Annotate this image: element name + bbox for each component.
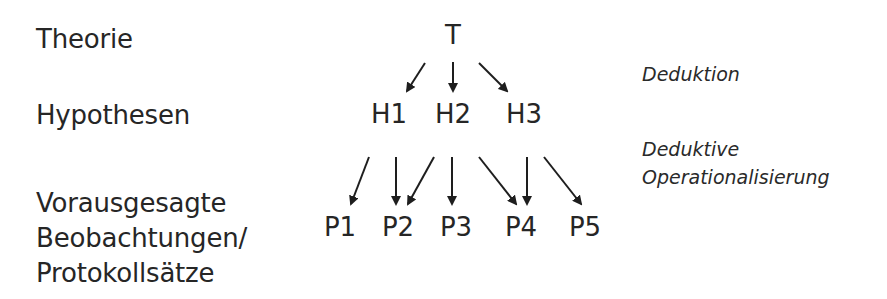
- arrow-t-h3: [479, 63, 507, 91]
- arrow-h1-p1: [351, 157, 369, 204]
- arrow-h2-p4: [479, 157, 516, 204]
- deduction-arrows: [0, 0, 887, 299]
- arrow-h2-p2: [408, 157, 434, 204]
- arrow-t-h1: [407, 63, 425, 91]
- arrow-h3-p5: [544, 157, 581, 204]
